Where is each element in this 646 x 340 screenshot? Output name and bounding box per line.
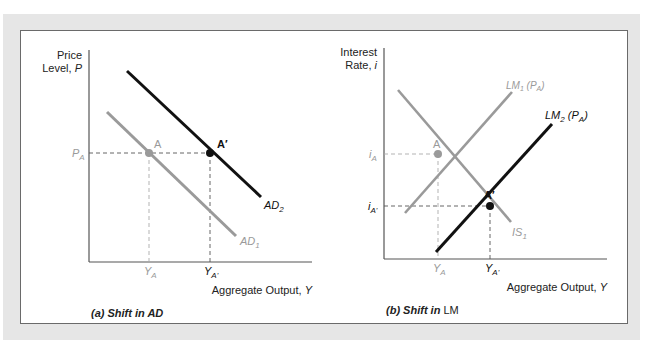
panel-b-caption: (b) Shift in LM (386, 304, 459, 316)
panel-b-y-axis-label-line2: Rate, i (345, 59, 377, 71)
lm2-label: LM2 (PA) (545, 109, 588, 124)
panel-b-y-axis-label-line1: Interest (340, 46, 377, 58)
point-a-label: A (154, 138, 162, 150)
point-a (145, 149, 153, 157)
diagram-canvas: Price Level, P A A′ AD2 AD1 PA YA YA' Ag… (0, 0, 646, 340)
lm1-curve (405, 92, 512, 213)
panel-b-ia-prime-tick: iA' (368, 200, 378, 215)
panel-b-ia-tick: iA (369, 148, 377, 163)
point-a-prime-label: A′ (484, 189, 495, 201)
panel-a-shift-in-ad: Price Level, P A A′ AD2 AD1 PA YA YA' Ag… (42, 49, 312, 319)
panel-a-caption: (a) Shift in AD (91, 307, 163, 319)
lm1-label: LM1 (PA) (506, 80, 545, 92)
panel-b-x-axis-label: Aggregate Output, Y (507, 281, 608, 293)
point-a-prime (206, 149, 214, 157)
panel-a-ya-tick: YA (144, 265, 157, 280)
ad2-curve (127, 71, 261, 197)
panel-a-pa-tick: PA (72, 147, 85, 162)
panel-b-ya-tick: YA (433, 262, 446, 277)
ad1-curve (107, 112, 236, 236)
ad1-label: AD1 (239, 235, 260, 250)
is1-label: IS1 (512, 226, 527, 241)
ad2-label: AD2 (263, 199, 284, 214)
panel-b-ya-prime-tick: YA' (485, 262, 500, 277)
point-a (434, 150, 442, 158)
panel-a-y-axis-label-line1: Price (57, 49, 82, 61)
point-a-prime (486, 202, 494, 210)
lm2-curve (436, 124, 552, 252)
panel-a-ya-prime-tick: YA' (204, 265, 219, 280)
panel-a-x-axis-label: Aggregate Output, Y (212, 284, 313, 296)
point-a-label: A (433, 138, 441, 150)
panel-a-y-axis-label-line2: Level, P (42, 62, 82, 74)
panel-b-shift-in-lm: Interest Rate, i A A′ LM1 (PA) LM2 (PA) … (340, 46, 607, 316)
point-a-prime-label: A′ (217, 138, 228, 150)
